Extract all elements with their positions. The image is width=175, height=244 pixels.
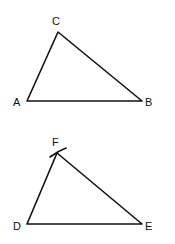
vertex-label-c: C	[52, 15, 60, 27]
vertex-label-a: A	[13, 96, 21, 108]
vertex-label-d: D	[13, 220, 21, 232]
vertex-label-e: E	[145, 220, 152, 232]
triangle-def-outline	[27, 153, 142, 224]
construction-arc-mark	[50, 148, 66, 157]
triangle-def: F D E	[13, 136, 152, 232]
triangle-abc: C A B	[13, 15, 152, 108]
triangle-abc-outline	[27, 32, 142, 101]
geometry-diagram: C A B F D E	[0, 0, 175, 244]
vertex-label-b: B	[145, 96, 152, 108]
vertex-label-f: F	[52, 136, 59, 148]
